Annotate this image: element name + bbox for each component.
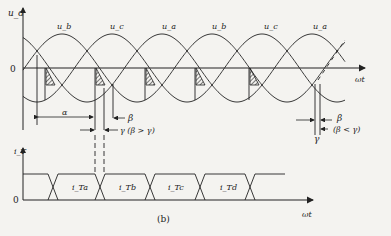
inverter-commutation-diagram: u_d ωt 0 u_b u_c u_a u_b u_c u_a — [0, 0, 391, 236]
waveform-label: u_c — [264, 22, 278, 31]
pulse-label-i-td: i_Td — [220, 183, 237, 192]
waveform-label: u_c — [110, 22, 124, 31]
alpha-label: α — [62, 108, 68, 117]
origin-label-lower: 0 — [13, 195, 19, 205]
projection-lines — [95, 135, 104, 175]
gamma-right-label: γ — [314, 134, 320, 144]
it-axis-label: i_T — [14, 147, 27, 156]
dashed-extension — [318, 40, 345, 80]
waveform-label: u_a — [162, 22, 176, 31]
pulse-label-i-tc: i_Tc — [168, 183, 184, 192]
pulse-label-i-ta: i_Ta — [72, 183, 88, 192]
case2-label: (β < γ) — [333, 125, 360, 134]
omega-t-axis-label: ωt — [355, 75, 366, 84]
lower-plot: i_T ωt 0 i_Ta i_Tb i_Tc i_Td — [13, 147, 313, 219]
figure-caption: (b) — [157, 214, 170, 224]
gamma-case1-label: γ (β > γ) — [120, 126, 155, 135]
origin-label: 0 — [10, 64, 16, 74]
waveform-label: u_b — [212, 22, 226, 31]
beta-label: β — [127, 113, 133, 123]
commutation-areas — [46, 68, 259, 85]
pulse-label-i-tb: i_Tb — [119, 183, 136, 192]
beta-right-label: β — [336, 113, 342, 123]
firing-lines — [37, 55, 320, 135]
waveform-label: u_a — [313, 22, 327, 31]
upper-plot: u_d ωt 0 u_b u_c u_a u_b u_c u_a — [8, 8, 366, 144]
waveform-label: u_b — [57, 22, 71, 31]
omega-t-axis-lower-label: ωt — [302, 210, 313, 219]
thyristor-currents — [23, 174, 285, 200]
ud-axis-label: u_d — [8, 8, 24, 19]
